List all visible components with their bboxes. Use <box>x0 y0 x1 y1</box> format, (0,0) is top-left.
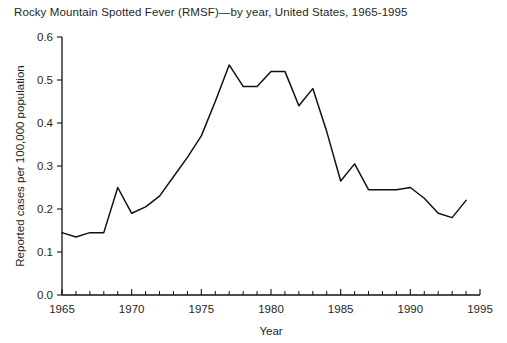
y-tick-label: 0.5 <box>37 74 53 86</box>
y-axis-title: Reported cases per 100,000 population <box>14 65 26 266</box>
x-tick-label: 1970 <box>119 303 145 315</box>
x-tick-label: 1965 <box>49 303 75 315</box>
y-axis-ticks <box>57 37 62 295</box>
x-axis-tick-labels: 1965197019751980198519901995 <box>49 303 493 315</box>
x-tick-label: 1980 <box>258 303 284 315</box>
y-tick-label: 0.2 <box>37 203 53 215</box>
y-tick-label: 0.3 <box>37 160 53 172</box>
x-axis-major-ticks <box>62 289 480 295</box>
x-tick-label: 1985 <box>328 303 354 315</box>
y-axis-tick-labels: 0.00.10.20.30.40.50.6 <box>37 31 54 301</box>
x-axis-title: Year <box>259 325 282 337</box>
x-tick-label: 1975 <box>189 303 215 315</box>
y-tick-label: 0.6 <box>37 31 53 43</box>
y-tick-label: 0.0 <box>37 289 53 301</box>
chart-axes: 0.00.10.20.30.40.50.6 196519701975198019… <box>37 31 493 315</box>
x-tick-label: 1990 <box>398 303 424 315</box>
y-tick-label: 0.4 <box>37 117 54 129</box>
line-chart-plot: 0.00.10.20.30.40.50.6 196519701975198019… <box>0 0 507 343</box>
x-tick-label: 1995 <box>467 303 493 315</box>
chart-figure: Rocky Mountain Spotted Fever (RMSF)—by y… <box>0 0 507 343</box>
data-series-line <box>62 65 466 237</box>
y-tick-label: 0.1 <box>37 246 53 258</box>
